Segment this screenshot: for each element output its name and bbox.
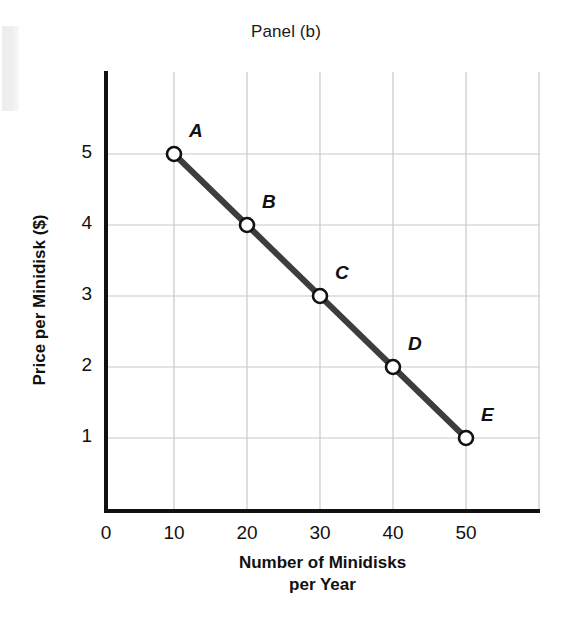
x-tick-label-0: 0 bbox=[86, 522, 126, 544]
x-axis-title-line1: Number of Minidisks bbox=[105, 552, 540, 574]
vertical-gridlines bbox=[174, 72, 539, 512]
chart-figure: Panel (b) bbox=[0, 0, 572, 618]
x-axis-title: Number of Minidisks per Year bbox=[105, 552, 540, 596]
y-axis-title: Price per Minidisk ($) bbox=[30, 120, 50, 480]
point-label-c: C bbox=[335, 262, 349, 284]
x-axis-title-line2: per Year bbox=[105, 574, 540, 596]
point-label-d: D bbox=[408, 333, 422, 355]
data-point-c bbox=[313, 289, 327, 303]
data-point-b bbox=[240, 218, 254, 232]
y-tick-label-2: 2 bbox=[56, 354, 92, 376]
point-label-a: A bbox=[189, 120, 203, 142]
y-tick-label-3: 3 bbox=[56, 283, 92, 305]
x-tick-label-30: 30 bbox=[300, 522, 340, 544]
point-label-b: B bbox=[262, 191, 276, 213]
x-tick-label-10: 10 bbox=[154, 522, 194, 544]
point-label-e: E bbox=[481, 404, 494, 426]
x-tick-label-20: 20 bbox=[227, 522, 267, 544]
x-tick-label-40: 40 bbox=[373, 522, 413, 544]
data-point-e bbox=[459, 431, 473, 445]
y-tick-label-5: 5 bbox=[56, 141, 92, 163]
data-point-a bbox=[167, 147, 181, 161]
y-tick-label-4: 4 bbox=[56, 212, 92, 234]
x-tick-label-50: 50 bbox=[446, 522, 486, 544]
y-tick-label-1: 1 bbox=[56, 425, 92, 447]
data-point-d bbox=[386, 360, 400, 374]
